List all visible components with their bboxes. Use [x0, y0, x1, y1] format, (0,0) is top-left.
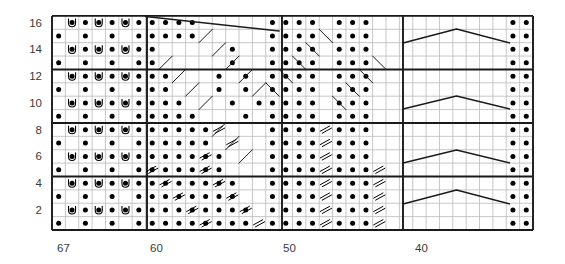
decrease-slant-icon: [320, 179, 332, 187]
purl-dot-icon: [270, 167, 275, 172]
purl-dot-icon: [136, 221, 141, 226]
cable-line: [226, 136, 239, 149]
purl-dot-icon: [283, 87, 288, 92]
purl-dot-icon: [510, 114, 515, 119]
purl-dot-icon: [510, 33, 515, 38]
row-number-label: 2: [36, 204, 42, 216]
purl-dot-icon: [363, 127, 368, 132]
purl-dot-icon: [136, 154, 141, 159]
purl-dot-icon: [150, 33, 155, 38]
purl-dot-icon: [350, 154, 355, 159]
purl-dot-icon: [337, 207, 342, 212]
purl-dot-icon: [310, 154, 315, 159]
purl-dot-icon: [350, 167, 355, 172]
purl-dot-icon: [163, 20, 168, 25]
purl-dot-icon: [310, 100, 315, 105]
purl-dot-icon: [203, 141, 208, 146]
purl-dot-icon: [110, 100, 115, 105]
purl-dot-icon: [310, 60, 315, 65]
knitting-chart-container: 246810121416 67605040: [0, 0, 565, 264]
purl-dot-icon: [150, 20, 155, 25]
cable-line: [186, 83, 199, 96]
column-number-labels: 67605040: [57, 242, 428, 254]
purl-dot-icon: [283, 60, 288, 65]
purl-dot-icon: [363, 154, 368, 159]
cable-line: [159, 56, 172, 69]
purl-dot-icon: [70, 181, 75, 186]
decrease-slant-stroke: [322, 155, 332, 161]
purl-dot-icon: [163, 194, 168, 199]
purl-dot-icon: [363, 114, 368, 119]
purl-dot-icon: [270, 194, 275, 199]
purl-dot-icon: [283, 47, 288, 52]
column-number-label: 50: [283, 242, 296, 254]
purl-dot-icon: [176, 114, 181, 119]
purl-dot-icon: [310, 20, 315, 25]
decrease-slant-stroke: [322, 195, 332, 201]
purl-dot-icon: [510, 100, 515, 105]
purl-dot-icon: [524, 74, 529, 79]
purl-dot-icon: [70, 47, 75, 52]
purl-dot-icon: [337, 47, 342, 52]
purl-dot-icon: [190, 141, 195, 146]
purl-dot-icon: [510, 74, 515, 79]
decrease-slant-icon: [373, 179, 385, 187]
decrease-slant-icon: [320, 206, 332, 214]
purl-dot-icon: [83, 114, 88, 119]
purl-dot-icon: [110, 33, 115, 38]
purl-dot-icon: [190, 127, 195, 132]
purl-dot-icon: [56, 221, 61, 226]
cable-line: [252, 83, 265, 96]
purl-dot-icon: [524, 181, 529, 186]
cable-line: [199, 96, 212, 109]
purl-dot-icon: [524, 100, 529, 105]
purl-dot-icon: [524, 114, 529, 119]
purl-dot-icon: [270, 207, 275, 212]
purl-dot-icon: [243, 221, 248, 226]
purl-dot-icon: [510, 207, 515, 212]
purl-dot-icon: [136, 141, 141, 146]
cable-diamond-upper: [403, 150, 510, 163]
purl-dot-icon: [350, 114, 355, 119]
purl-dot-icon: [524, 47, 529, 52]
purl-dot-icon: [283, 194, 288, 199]
decrease-slant-stroke: [320, 206, 330, 212]
decrease-slant-stroke: [375, 181, 385, 187]
purl-dot-icon: [283, 207, 288, 212]
purl-dot-icon: [270, 221, 275, 226]
decrease-slant-stroke: [322, 208, 332, 214]
purl-dot-icon: [337, 60, 342, 65]
cable-line: [346, 83, 359, 96]
cable-line: [239, 69, 252, 82]
decrease-slant-icon: [373, 206, 385, 214]
purl-dot-icon: [297, 167, 302, 172]
purl-dot-icon: [270, 60, 275, 65]
purl-dot-icon: [283, 181, 288, 186]
purl-dot-icon: [163, 154, 168, 159]
purl-dot-icon: [337, 194, 342, 199]
decrease-slant-icon: [373, 166, 385, 174]
purl-dot-icon: [110, 114, 115, 119]
decrease-slant-icon: [320, 153, 332, 161]
purl-dot-icon: [524, 20, 529, 25]
purl-dot-icon: [510, 221, 515, 226]
purl-dot-icon: [524, 221, 529, 226]
purl-dot-icon: [150, 221, 155, 226]
purl-dot-icon: [310, 167, 315, 172]
purl-dot-icon: [230, 100, 235, 105]
decrease-slant-stroke: [320, 220, 330, 226]
purl-dot-icon: [337, 33, 342, 38]
decrease-slant-stroke: [322, 168, 332, 174]
purl-dot-icon: [297, 194, 302, 199]
purl-dot-icon: [70, 154, 75, 159]
purl-dot-icon: [150, 87, 155, 92]
purl-dot-icon: [56, 114, 61, 119]
purl-dot-icon: [217, 194, 222, 199]
purl-dot-icon: [297, 114, 302, 119]
purl-dot-icon: [176, 33, 181, 38]
purl-dot-icon: [337, 221, 342, 226]
purl-dot-icon: [217, 207, 222, 212]
purl-dot-icon: [96, 100, 101, 105]
purl-dot-icon: [123, 100, 128, 105]
purl-dot-icon: [203, 194, 208, 199]
